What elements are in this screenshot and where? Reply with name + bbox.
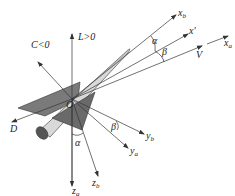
velocity-label: V — [196, 49, 204, 60]
beta-top-label: β — [161, 46, 167, 57]
velocity-axis — [72, 46, 202, 99]
x-prime-axis — [72, 34, 188, 99]
x-b-label: xb — [177, 7, 186, 20]
drag-label: D — [9, 123, 18, 134]
side-force-label: C<0 — [31, 39, 49, 50]
beta-bottom-arc — [116, 121, 118, 130]
aircraft-axes-diagram: L>0 C<0 D O xb x' V xa yb ya za zb α β β… — [0, 0, 235, 196]
x-prime-label: x' — [188, 25, 196, 36]
alpha-bottom-label: α — [75, 137, 81, 148]
x-b-axis — [72, 15, 176, 99]
z-a-label: za — [71, 185, 80, 196]
x-a-label: xa — [223, 37, 232, 50]
y-b-label: yb — [145, 130, 154, 143]
lift-label: L>0 — [77, 31, 95, 42]
alpha-top-label: α — [152, 35, 158, 46]
beta-bottom-label: β — [110, 121, 116, 132]
origin-label: O — [66, 99, 73, 110]
z-b-label: zb — [91, 177, 100, 190]
alpha-bottom-arc — [72, 133, 83, 135]
y-a-label: ya — [129, 145, 138, 158]
